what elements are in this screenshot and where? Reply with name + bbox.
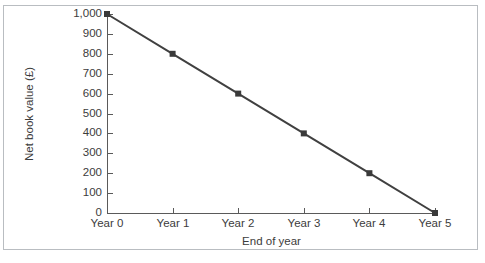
plot-area: 1,0009008007006005004003002001000 Year 0… xyxy=(0,0,485,263)
data-point-marker xyxy=(301,130,307,136)
data-point-marker xyxy=(432,210,438,216)
data-point-marker xyxy=(170,51,176,57)
chart-figure: 1,0009008007006005004003002001000 Year 0… xyxy=(0,0,485,263)
data-point-marker xyxy=(366,170,372,176)
series-line-net-book-value xyxy=(107,14,435,213)
data-series-layer xyxy=(0,0,485,263)
data-point-marker xyxy=(235,91,241,97)
data-point-marker xyxy=(104,11,110,17)
